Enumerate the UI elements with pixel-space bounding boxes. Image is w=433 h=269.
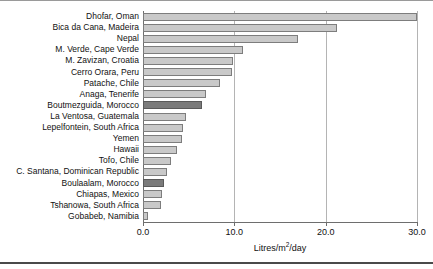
bar <box>143 113 186 121</box>
bar-row: Yemen <box>0 133 433 144</box>
category-label: Bica da Cana, Madeira <box>53 22 139 33</box>
bar-row: Chiapas, Mexico <box>0 189 433 200</box>
bar-row: Patache, Chile <box>0 78 433 89</box>
bar <box>143 79 220 87</box>
category-label: C. Santana, Dominican Republic <box>16 166 139 177</box>
bar <box>143 24 337 32</box>
bar <box>143 157 171 165</box>
bar <box>143 90 206 98</box>
bar-row: M. Verde, Cape Verde <box>0 44 433 55</box>
bar <box>143 13 417 21</box>
category-label: Nepal <box>117 33 139 44</box>
bar <box>143 190 162 198</box>
category-label: Lepelfontein, South Africa <box>42 122 139 133</box>
category-label: Tshanowa, South Africa <box>50 200 139 211</box>
bar <box>143 57 233 65</box>
plot-wrapper: 0.010.020.030.0 Dhofar, OmanBica da Cana… <box>0 0 433 242</box>
bar-row: Nepal <box>0 33 433 44</box>
bar-row: Tshanowa, South Africa <box>0 200 433 211</box>
bar <box>143 35 298 43</box>
bar-row: Boulaalam, Morocco <box>0 178 433 189</box>
bar <box>143 124 183 132</box>
category-label: Dhofar, Oman <box>86 11 139 22</box>
bar-row: M. Zavizan, Croatia <box>0 55 433 66</box>
bar-row: Boutmezguida, Morocco <box>0 100 433 111</box>
x-tick-label: 20.0 <box>317 227 335 237</box>
bar-row: Bica da Cana, Madeira <box>0 22 433 33</box>
fog-collection-bar-chart: 0.010.020.030.0 Dhofar, OmanBica da Cana… <box>0 0 433 269</box>
bar-row: C. Santana, Dominican Republic <box>0 166 433 177</box>
bar-row: Gobabeb, Namibia <box>0 211 433 222</box>
category-label: M. Zavizan, Croatia <box>65 55 139 66</box>
bar <box>143 135 182 143</box>
bar <box>143 101 202 109</box>
category-label: Patache, Chile <box>84 78 139 89</box>
bar <box>143 146 177 154</box>
bar <box>143 201 161 209</box>
x-tick-label: 0.0 <box>137 227 150 237</box>
x-axis-line <box>143 222 418 223</box>
category-label: Boulaalam, Morocco <box>62 178 139 189</box>
category-label: La Ventosa, Guatemala <box>50 111 139 122</box>
bar-row: Lepelfontein, South Africa <box>0 122 433 133</box>
category-label: Yemen <box>113 133 139 144</box>
bar-row: Cerro Orara, Peru <box>0 67 433 78</box>
x-tick-label: 30.0 <box>408 227 426 237</box>
category-label: Cerro Orara, Peru <box>71 67 139 78</box>
bar-row: Tofo, Chile <box>0 155 433 166</box>
bar <box>143 212 148 220</box>
bar-row: La Ventosa, Guatemala <box>0 111 433 122</box>
category-label: Hawaii <box>113 144 139 155</box>
x-axis-title: Litres/m2/day <box>143 241 417 253</box>
bar-row: Hawaii <box>0 144 433 155</box>
category-label: Tofo, Chile <box>99 155 139 166</box>
category-label: Gobabeb, Namibia <box>68 211 139 222</box>
bar <box>143 46 243 54</box>
bar-row: Anaga, Tenerife <box>0 89 433 100</box>
category-label: Anaga, Tenerife <box>80 89 139 100</box>
x-tick-label: 10.0 <box>226 227 244 237</box>
bar <box>143 179 164 187</box>
figure-bottom-rule <box>0 262 433 264</box>
bar-row: Dhofar, Oman <box>0 11 433 22</box>
bar <box>143 168 167 176</box>
x-axis-title-text: Litres/m2/day <box>254 243 307 253</box>
category-label: M. Verde, Cape Verde <box>55 44 139 55</box>
category-label: Chiapas, Mexico <box>76 189 139 200</box>
category-label: Boutmezguida, Morocco <box>47 100 139 111</box>
bar <box>143 68 232 76</box>
